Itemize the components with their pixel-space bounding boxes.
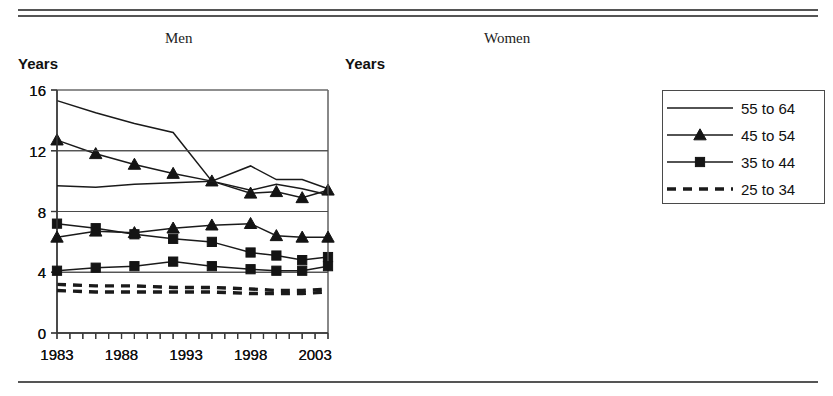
data-point-marker-triangle: [270, 186, 282, 197]
data-point-marker-square: [246, 248, 255, 257]
data-point-marker-square: [207, 237, 216, 246]
legend-label: 45 to 54: [741, 128, 795, 143]
data-point-marker-square: [272, 266, 281, 275]
legend-item-25-to-34[interactable]: 25 to 34: [663, 175, 826, 203]
legend-item-55-to-64[interactable]: 55 to 64: [663, 94, 826, 122]
data-point-marker-square: [169, 234, 178, 243]
x-tick-label: 1983: [40, 346, 73, 363]
legend-label: 25 to 34: [741, 182, 795, 197]
data-point-marker-square: [207, 262, 216, 271]
data-point-marker-square: [169, 257, 178, 266]
data-point-marker-square: [246, 265, 255, 274]
data-point-marker-square: [52, 266, 61, 275]
data-point-marker-square: [130, 262, 139, 271]
legend-item-45-to-54[interactable]: 45 to 54: [663, 121, 826, 149]
data-point-marker-square: [272, 251, 281, 260]
data-point-marker-square: [91, 263, 100, 272]
y-tick-label: 12: [29, 143, 46, 160]
legend-label: 35 to 44: [741, 155, 795, 170]
y-tick-label: 8: [38, 204, 46, 221]
x-tick-label: 1998: [234, 346, 267, 363]
y-tick-label: 4: [38, 264, 46, 281]
series-line-55-to-64: [57, 101, 328, 189]
chart-plot-women: 048121619831988199319982003: [330, 0, 670, 396]
chart-legend: 55 to 6445 to 5435 to 4425 to 34: [662, 90, 825, 204]
x-tick-label: 1993: [169, 346, 202, 363]
x-tick-label: 1988: [105, 346, 138, 363]
x-tick-label: 2003: [298, 346, 331, 363]
legend-swatch-square-icon: [663, 149, 741, 175]
y-tick-label: 16: [29, 82, 46, 99]
series-line-45-to-54: [57, 140, 328, 198]
y-tick-label: 0: [38, 325, 46, 342]
data-point-marker-square: [298, 266, 307, 275]
series-line-25-to-34: [57, 284, 328, 290]
legend-swatch-solid-icon: [663, 95, 741, 121]
data-point-marker-triangle: [90, 148, 102, 159]
legend-swatch-dashed-icon: [663, 176, 741, 202]
data-point-marker-square: [323, 262, 332, 271]
legend-label: 55 to 64: [741, 101, 795, 116]
legend-swatch-triangle-icon: [663, 122, 741, 148]
data-point-marker-square: [298, 256, 307, 265]
legend-item-35-to-44[interactable]: 35 to 44: [663, 148, 826, 176]
